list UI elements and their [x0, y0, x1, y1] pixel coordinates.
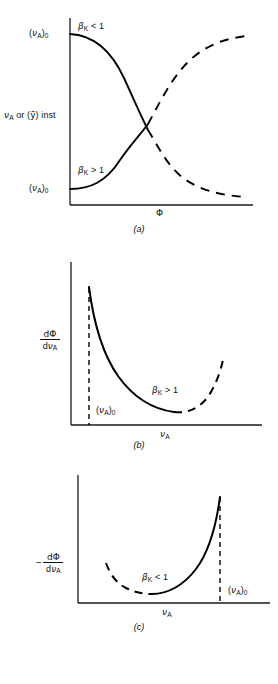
- panel-a-axes: [70, 18, 253, 205]
- minus-sign: −: [36, 557, 42, 569]
- panel-b-ylabel: dΦ dνA: [40, 328, 60, 352]
- panel-a-value-upper: (νA)0: [29, 29, 49, 38]
- panel-c-xlabel: νA: [162, 608, 172, 617]
- panel-a-xlabel: Φ: [156, 209, 163, 218]
- panel-b: dΦ dνA (νA)0 βK > 1 νA (b): [0, 240, 278, 455]
- panel-a-annotation-beta-gt-1: βK > 1: [78, 166, 104, 175]
- panel-b-annotation-beta-gt-1: βK > 1: [152, 386, 178, 395]
- panel-b-curve-dashed: [174, 360, 223, 412]
- panel-b-asymptote-label: (νA)0: [96, 406, 116, 415]
- panel-b-xlabel: νA: [160, 430, 170, 439]
- panel-c-axes: [78, 475, 270, 603]
- panel-b-caption: (b): [0, 440, 278, 450]
- curve-beta-lt-1-dashed: [148, 130, 247, 197]
- panel-a: νA or (ȳ) inst (νA)0 (νA)0 βK < 1 βK > 1…: [0, 0, 278, 240]
- panel-a-value-lower: (νA)0: [29, 184, 49, 193]
- panel-c: − dΦ dνA βK < 1 (νA)0 νA (c): [0, 455, 278, 684]
- curve-beta-gt-1-dashed: [148, 36, 247, 124]
- panel-c-ylabel: − dΦ dνA: [36, 551, 63, 575]
- panel-c-caption: (c): [0, 622, 278, 632]
- panel-a-caption: (a): [0, 224, 278, 234]
- panel-b-axes: [71, 262, 262, 425]
- curve-beta-gt-1-solid: [70, 124, 148, 189]
- curve-beta-lt-1-solid: [70, 34, 148, 130]
- panel-c-asymptote-label: (νA)0: [228, 586, 248, 595]
- panel-a-annotation-beta-lt-1: βK < 1: [78, 22, 104, 31]
- panel-a-ylabel: νA or (ȳ) inst: [4, 111, 56, 120]
- figure-three-panel-plots: νA or (ȳ) inst (νA)0 (νA)0 βK < 1 βK > 1…: [0, 0, 278, 684]
- panel-c-annotation-beta-lt-1: βK < 1: [142, 573, 168, 582]
